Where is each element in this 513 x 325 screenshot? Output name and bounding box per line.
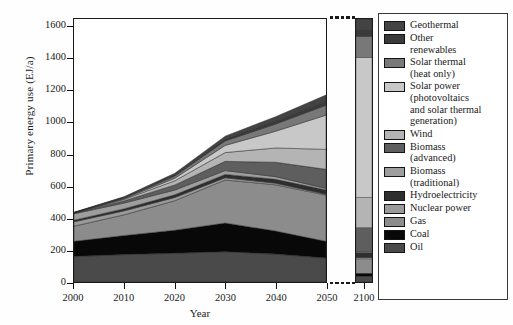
area-band [356, 259, 372, 273]
y-tick-mark [67, 187, 74, 188]
legend-swatch [384, 204, 405, 214]
legend-label-continuation: (traditional) [410, 177, 459, 189]
x-tick-label: 2010 [101, 292, 147, 303]
legend-label: Geothermal [410, 19, 459, 31]
legend-item[interactable]: Wind [384, 128, 503, 140]
y-tick-mark [67, 58, 74, 59]
legend-item[interactable]: Biomass(advanced) [384, 141, 503, 164]
y-tick-mark [67, 251, 74, 252]
x-tick-mark [327, 283, 328, 289]
x-tick-mark [225, 283, 226, 289]
y-tick-label: 200 [26, 245, 66, 255]
legend-swatch [384, 143, 405, 153]
axis-break-dash [341, 282, 344, 284]
y-tick-mark [67, 26, 74, 27]
y-tick-label: 1200 [26, 84, 66, 94]
legend-label: Solar power(photovoltaicsand solar therm… [410, 80, 481, 126]
legend-item[interactable]: Solar thermal(heat only) [384, 56, 503, 79]
x-axis-label: Year [73, 307, 327, 319]
y-tick-label: 0 [26, 277, 66, 287]
area-band [74, 252, 326, 282]
legend-item[interactable]: Hydroelectricity [384, 189, 503, 201]
legend-item[interactable]: Solar power(photovoltaicsand solar therm… [384, 80, 503, 126]
legend-label-continuation: and solar thermal [410, 104, 481, 116]
area-band [356, 37, 372, 58]
legend-label: Gas [410, 215, 426, 227]
area-band [356, 276, 372, 282]
area-band [356, 253, 372, 258]
y-tick-mark [67, 90, 74, 91]
legend-swatch [384, 230, 405, 240]
y-axis-ticks: 02004006008001000120014001600 [26, 0, 66, 325]
legend-swatch [384, 191, 405, 201]
legend: GeothermalOtherrenewablesSolar thermal(h… [378, 13, 508, 300]
x-tick-label: 2020 [152, 292, 198, 303]
area-band [356, 228, 372, 252]
legend-label: Biomass(advanced) [410, 141, 456, 164]
legend-swatch [384, 34, 405, 44]
axis-break-dash [346, 16, 349, 18]
legend-item[interactable]: Oil [384, 241, 503, 253]
stacked-area-plot [74, 19, 326, 282]
legend-label-continuation: (photovoltaics [410, 92, 481, 104]
legend-swatch [384, 217, 405, 227]
axis-break-dash [330, 282, 333, 284]
x-tick-label: 2000 [50, 292, 96, 303]
legend-item[interactable]: Otherrenewables [384, 32, 503, 55]
main-plot-panel [73, 18, 327, 283]
legend-label-continuation: renewables [410, 44, 456, 56]
y-tick-mark [67, 219, 74, 220]
axis-break-dash [346, 282, 349, 284]
legend-item[interactable]: Biomass(traditional) [384, 165, 503, 188]
area-band [356, 29, 372, 36]
x-tick-mark [364, 283, 365, 289]
legend-label: Nuclear power [410, 202, 471, 214]
y-tick-label: 1400 [26, 52, 66, 62]
legend-swatch [384, 82, 405, 92]
legend-swatch [384, 130, 405, 140]
legend-swatch [384, 167, 405, 177]
legend-item[interactable]: Gas [384, 215, 503, 227]
x-tick-mark [124, 283, 125, 289]
y-tick-mark [67, 155, 74, 156]
chart-figure: Primary energy use (EJ/a) 02004006008001… [0, 0, 513, 325]
y-tick-label: 600 [26, 181, 66, 191]
legend-label-continuation: (advanced) [410, 152, 456, 164]
area-band [356, 57, 372, 197]
y-tick-label: 400 [26, 213, 66, 223]
legend-label: Oil [410, 241, 423, 253]
x-tick-mark [276, 283, 277, 289]
y-tick-label: 1600 [26, 20, 66, 30]
y-tick-label: 800 [26, 149, 66, 159]
legend-label: Otherrenewables [410, 32, 456, 55]
axis-break-dash [352, 16, 355, 18]
axis-break-dash [330, 16, 333, 18]
legend-item[interactable]: Coal [384, 228, 503, 240]
x-tick-label: 2040 [253, 292, 299, 303]
area-band [356, 198, 372, 228]
legend-swatch [384, 243, 405, 253]
far-year-panel [355, 18, 373, 283]
y-tick-label: 1000 [26, 116, 66, 126]
axis-break-dash [341, 16, 344, 18]
legend-label: Biomass(traditional) [410, 165, 459, 188]
legend-label: Hydroelectricity [410, 189, 477, 201]
axis-break-dash [352, 282, 355, 284]
legend-label: Coal [410, 228, 429, 240]
legend-label: Wind [410, 128, 432, 140]
y-tick-mark [67, 122, 74, 123]
legend-label: Solar thermal(heat only) [410, 56, 466, 79]
x-tick-mark [175, 283, 176, 289]
legend-item[interactable]: Geothermal [384, 19, 503, 31]
legend-label-continuation: generation) [410, 115, 481, 127]
legend-swatch [384, 58, 405, 68]
area-band [356, 273, 372, 276]
area-band [356, 19, 372, 29]
legend-swatch [384, 21, 405, 31]
legend-label-continuation: (heat only) [410, 68, 466, 80]
axis-break-dash [335, 282, 338, 284]
legend-item[interactable]: Nuclear power [384, 202, 503, 214]
y-tick-mark [67, 283, 74, 284]
x-tick-label: 2030 [202, 292, 248, 303]
axis-break-dash [335, 16, 338, 18]
